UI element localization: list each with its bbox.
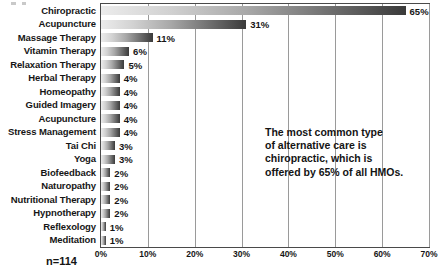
x-tick-60: 60% [374,249,391,259]
bar-value-label: 31% [250,20,269,29]
bar-value-label: 1% [110,223,124,232]
bar-massage-therapy [101,33,153,42]
bar-acupuncture [101,20,246,29]
bar-value-label: 4% [124,115,138,124]
category-label-tai-chi: Tai Chi [0,141,96,150]
bar-meditation [101,236,106,245]
bar-chiropractic [101,6,406,15]
bar-vitamin-therapy [101,47,129,56]
bar-value-label: 3% [119,142,133,151]
bar-value-label: 4% [124,74,138,83]
bar-homeopathy [101,87,120,96]
bar-nutritional-therapy [101,195,110,204]
bar-tai-chi [101,141,115,150]
bar-stress-management [101,128,120,137]
gridline-20 [195,4,196,247]
category-label-biofeedback: Biofeedback [0,168,96,177]
sample-size-note: n=114 [46,255,77,267]
bar-relaxation-therapy [101,60,124,69]
category-label-hypnotherapy: Hypnotherapy [0,208,96,217]
category-label-stress-management: Stress Management [0,127,96,136]
bar-value-label: 2% [114,169,128,178]
chart-annotation: The most common typeof alternative care … [265,126,433,179]
category-label-acupuncture: Acupuncture [0,114,96,123]
bar-acupuncture [101,114,120,123]
category-label-relaxation-therapy: Relaxation Therapy [0,60,96,69]
annotation-line: The most common type [265,126,433,139]
bar-value-label: 65% [410,7,429,16]
bar-value-label: 5% [128,61,142,70]
category-label-yoga: Yoga [0,154,96,163]
category-label-nutritional-therapy: Nutritional Therapy [0,195,96,204]
category-label-homeopathy: Homeopathy [0,87,96,96]
category-label-meditation: Meditation [0,235,96,244]
plot-area: 65%31%11%6%5%4%4%4%4%4%3%3%2%2%2%2%1%1% … [100,3,430,248]
bar-value-label: 11% [157,34,176,43]
bar-biofeedback [101,168,110,177]
bar-value-label: 1% [110,236,124,245]
category-axis-labels: ChiropracticAcupunctureMassage TherapyVi… [0,3,96,248]
bar-value-label: 2% [114,196,128,205]
x-tick-70: 70% [420,249,437,259]
category-label-vitamin-therapy: Vitamin Therapy [0,46,96,55]
x-tick-30: 30% [233,249,250,259]
bar-value-label: 4% [124,128,138,137]
bar-guided-imagery [101,101,120,110]
category-label-guided-imagery: Guided Imagery [0,100,96,109]
bar-yoga [101,155,115,164]
bar-value-label: 2% [114,182,128,191]
bar-herbal-therapy [101,74,120,83]
bar-hypnotherapy [101,209,110,218]
bar-value-label: 6% [133,47,147,56]
annotation-line: offered by 65% of all HMOs. [265,166,433,179]
x-tick-20: 20% [186,249,203,259]
category-label-herbal-therapy: Herbal Therapy [0,73,96,82]
bar-value-label: 2% [114,209,128,218]
bar-value-label: 4% [124,101,138,110]
x-tick-40: 40% [280,249,297,259]
x-tick-50: 50% [327,249,344,259]
annotation-line: of alternative care is [265,139,433,152]
bar-reflexology [101,222,106,231]
bar-naturopathy [101,182,110,191]
category-label-naturopathy: Naturopathy [0,181,96,190]
category-label-massage-therapy: Massage Therapy [0,33,96,42]
category-label-reflexology: Reflexology [0,222,96,231]
gridline-30 [242,4,243,247]
category-label-acupuncture: Acupuncture [0,19,96,28]
annotation-line: chiropractic, which is [265,152,433,165]
x-tick-0: 0% [95,249,107,259]
bar-value-label: 4% [124,88,138,97]
category-label-chiropractic: Chiropractic [0,6,96,15]
bar-value-label: 3% [119,155,133,164]
x-tick-10: 10% [139,249,156,259]
